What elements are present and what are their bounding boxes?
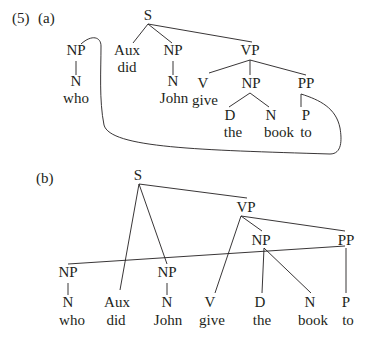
- tree-branch: [241, 216, 345, 231]
- word-did: did: [117, 59, 137, 75]
- node-vp: VP: [240, 42, 259, 58]
- node-s: S: [134, 167, 142, 183]
- part-label-b: (b): [36, 170, 54, 187]
- word-give: give: [199, 312, 225, 328]
- tree-branch: [68, 246, 345, 264]
- tree-branch: [139, 184, 247, 198]
- word-who: who: [63, 90, 89, 106]
- tree-b-nodes: SVPNPPPNPNwhoAuxdidNPNJohnVgiveDtheNbook…: [58, 167, 354, 328]
- syntax-tree-diagram: (5) (a) SNPNwhoAuxdidNPNJohnVPVgiveNPDth…: [0, 0, 369, 339]
- tree-branch: [133, 24, 148, 43]
- node-v: V: [198, 75, 209, 91]
- node-aux: Aux: [104, 294, 130, 310]
- tree-b-edges: [68, 184, 346, 295]
- part-label-a: (a): [38, 10, 55, 27]
- node-p: P: [342, 294, 350, 310]
- tree-branch: [209, 60, 250, 73]
- node-p: P: [302, 107, 310, 123]
- tree-branch: [139, 184, 167, 264]
- tree-branch: [250, 93, 269, 107]
- node-n3: N: [305, 294, 316, 310]
- node-v: V: [205, 294, 216, 310]
- node-pp: PP: [338, 232, 355, 248]
- tree-branch: [262, 248, 264, 293]
- example-number: (5): [12, 10, 30, 27]
- tree-branch: [264, 248, 311, 293]
- word-the: the: [224, 124, 243, 140]
- tree-branch: [148, 24, 172, 43]
- tree-a: (a) SNPNwhoAuxdidNPNJohnVPVgiveNPDtheNbo…: [38, 7, 341, 154]
- word-john: John: [154, 312, 183, 328]
- node-np1: NP: [58, 264, 77, 280]
- node-n2: N: [168, 73, 179, 89]
- node-pp: PP: [298, 75, 315, 91]
- word-book: book: [264, 124, 295, 140]
- node-n1: N: [63, 294, 74, 310]
- node-n1: N: [71, 73, 82, 89]
- word-who: who: [59, 312, 85, 328]
- word-did: did: [106, 312, 126, 328]
- tree-branch: [148, 24, 252, 42]
- tree-branch: [120, 184, 139, 290]
- node-np2: NP: [163, 42, 182, 58]
- word-give: give: [192, 92, 218, 108]
- node-aux: Aux: [114, 42, 140, 58]
- word-john: John: [160, 90, 189, 106]
- node-d: D: [255, 294, 266, 310]
- node-n2: N: [162, 294, 173, 310]
- node-np3: NP: [241, 75, 260, 91]
- node-n3: N: [266, 107, 277, 123]
- node-d: D: [225, 107, 236, 123]
- node-np3: NP: [251, 232, 270, 248]
- node-vp: VP: [236, 199, 255, 215]
- tree-branch: [229, 93, 250, 107]
- word-the: the: [253, 312, 272, 328]
- node-np1: NP: [66, 42, 85, 58]
- node-np2: NP: [157, 264, 176, 280]
- tree-b: (b) SVPNPPPNPNwhoAuxdidNPNJohnVgiveDtheN…: [36, 167, 354, 328]
- tree-branch: [250, 60, 306, 75]
- node-s: S: [144, 7, 152, 23]
- tree-a-edges: [76, 24, 306, 107]
- word-to: to: [300, 124, 312, 140]
- word-to: to: [342, 312, 354, 328]
- word-book: book: [298, 312, 329, 328]
